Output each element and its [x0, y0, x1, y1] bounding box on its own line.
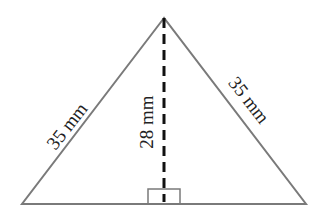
triangle-diagram: 35 mm 35 mm 28 mm: [0, 0, 328, 215]
triangle-figure: 35 mm 35 mm 28 mm: [0, 0, 328, 215]
height-label: 28 mm: [136, 95, 157, 149]
right-side-label: 35 mm: [224, 73, 274, 128]
